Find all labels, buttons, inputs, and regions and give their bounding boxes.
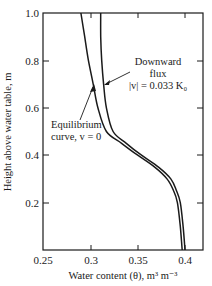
flux-annotation-line2: flux (150, 68, 168, 79)
flux-annotation-line3: |v| = 0.033 K₀ (129, 80, 187, 91)
flux-leader-line (106, 72, 130, 84)
x-axis-label: Water content (θ), m³ m⁻³ (68, 270, 177, 282)
y-tick-label: 0.6 (25, 102, 39, 114)
equilibrium-leader-line (80, 87, 93, 120)
x-tick-label: 0.35 (128, 254, 148, 266)
y-tick-label: 1.0 (25, 7, 39, 19)
y-axis-label: Height above water table, m (2, 73, 13, 192)
x-tick-label: 0.25 (33, 254, 53, 266)
flux-arrowhead-icon (104, 80, 110, 85)
equilibrium-annotation-line1: Equilibrium (51, 119, 102, 130)
downward-flux-curve (101, 13, 185, 250)
x-tick-label: 0.3 (84, 254, 98, 266)
x-ticks (91, 13, 185, 250)
y-tick-label: 0.4 (25, 149, 39, 161)
flux-annotation-line1: Downward (135, 56, 182, 67)
equilibrium-annotation-line2: curve, v = 0 (51, 131, 101, 142)
y-tick-label: 0.2 (25, 197, 39, 209)
chart: 0.25 0.3 0.35 0.4 1.0 0.8 0.6 0.4 0.2 Wa… (0, 0, 212, 286)
y-tick-label: 0.8 (25, 55, 39, 67)
x-tick-label: 0.4 (178, 254, 192, 266)
